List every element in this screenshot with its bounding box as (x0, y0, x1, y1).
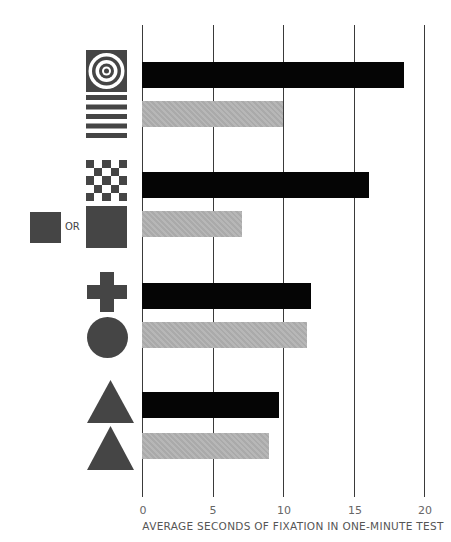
gridline-10 (283, 25, 284, 497)
x-tick-20: 20 (418, 504, 432, 517)
bar-triangle-1 (142, 392, 279, 418)
x-tick-0: 0 (140, 504, 147, 517)
small-square-icon (30, 212, 61, 243)
horizontal-stripes-icon (86, 95, 127, 138)
bullseye-icon (86, 50, 127, 92)
x-tick-15: 15 (348, 504, 362, 517)
gridline-15 (354, 25, 355, 497)
cross-icon (87, 272, 127, 312)
bar-checkerboard (142, 172, 369, 198)
bar-bullseye (142, 62, 404, 88)
x-axis-title: AVERAGE SECONDS OF FIXATION IN ONE-MINUT… (142, 520, 444, 532)
gridline-20 (424, 25, 425, 497)
bar-cross (142, 283, 311, 309)
bar-circle (142, 322, 307, 348)
gridline-0 (142, 25, 143, 497)
bar-stripes (142, 101, 283, 127)
or-label: OR (65, 221, 80, 232)
gridline-5 (213, 25, 214, 497)
bar-triangle-2 (142, 433, 269, 459)
triangle-icon (87, 380, 134, 423)
x-tick-10: 10 (277, 504, 291, 517)
circle-icon (87, 317, 128, 358)
large-square-icon (86, 206, 127, 248)
triangle-icon (87, 426, 134, 470)
checkerboard-icon (86, 160, 127, 201)
x-tick-5: 5 (210, 504, 217, 517)
bar-solid-square (142, 211, 242, 237)
